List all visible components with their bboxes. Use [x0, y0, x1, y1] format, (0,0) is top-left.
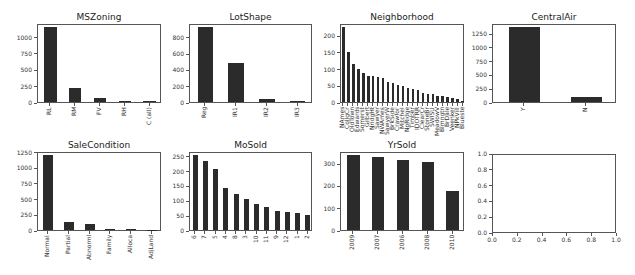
y-tick-label: 150: [306, 49, 335, 56]
y-tick-mark: [337, 69, 340, 70]
axes-centralair: [492, 24, 616, 103]
y-tick-label: 1000: [3, 34, 32, 41]
y-tick-mark: [34, 199, 37, 200]
y-tick-mark: [186, 37, 189, 38]
bar-crawfor: [397, 85, 399, 102]
y-tick-label: 0.2: [458, 213, 487, 220]
x-tick-label: N: [581, 108, 588, 113]
y-tick-label: 400: [155, 66, 184, 73]
x-tick-mark: [377, 103, 378, 106]
bar-sawyer: [377, 77, 379, 102]
x-tick-label: Normal: [43, 235, 50, 257]
bar-edwards: [357, 69, 359, 102]
y-tick-label: 0.4: [458, 197, 487, 204]
x-tick-label: 0.4: [532, 236, 552, 243]
bar-nwames: [382, 78, 384, 102]
x-tick-mark: [276, 231, 277, 234]
x-tick-label: 10: [252, 235, 259, 243]
x-tick-label: Family: [105, 235, 112, 254]
y-tick-mark: [489, 61, 492, 62]
x-tick-label: 2: [303, 235, 310, 239]
y-tick-label: 150: [155, 182, 184, 189]
bar-stonebr: [427, 94, 429, 102]
x-tick-mark: [407, 103, 408, 106]
x-tick-mark: [412, 103, 413, 106]
axes-lotshape: [189, 24, 312, 103]
y-tick-mark: [186, 186, 189, 187]
x-tick-mark: [422, 103, 423, 106]
x-tick-label: 1.0: [606, 236, 626, 243]
y-tick-mark: [186, 103, 189, 104]
bar-normal: [43, 155, 53, 230]
y-tick-mark: [337, 231, 340, 232]
y-tick-label: 0.0: [458, 229, 487, 236]
chart-title-neighborhood: Neighborhood: [340, 12, 464, 22]
y-tick-label: 0: [3, 99, 32, 106]
y-tick-mark: [34, 152, 37, 153]
x-tick-label: 6: [190, 235, 197, 239]
x-tick-mark: [68, 231, 69, 234]
y-tick-mark: [34, 53, 37, 54]
y-tick-label: 250: [155, 153, 184, 160]
x-tick-label: 3: [241, 235, 248, 239]
x-tick-mark: [367, 103, 368, 106]
bar-y: [509, 27, 540, 102]
x-tick-mark: [427, 103, 428, 106]
bar-partial: [64, 222, 74, 230]
bar-7: [203, 161, 208, 230]
x-tick-mark: [204, 231, 205, 234]
y-tick-label: 100: [155, 197, 184, 204]
bar-meadowv: [436, 96, 438, 102]
x-tick-mark: [377, 231, 378, 234]
y-tick-label: 250: [458, 85, 487, 92]
bar-idotrr: [417, 90, 419, 102]
bar-collgcr: [347, 52, 349, 102]
x-tick-mark: [266, 103, 267, 106]
y-tick-label: 750: [458, 58, 487, 65]
x-tick-label: IR2: [262, 107, 269, 117]
y-tick-label: 500: [458, 71, 487, 78]
x-tick-mark: [286, 231, 287, 234]
bar-veenker: [451, 98, 453, 102]
bar-brkside: [392, 83, 394, 102]
x-tick-mark: [372, 103, 373, 106]
y-tick-mark: [337, 86, 340, 87]
x-tick-mark: [362, 103, 363, 106]
bar-ir3: [290, 101, 305, 102]
bar-2010: [446, 191, 458, 230]
y-tick-label: 200: [306, 32, 335, 39]
bar-clearcr: [422, 93, 424, 102]
y-tick-mark: [186, 231, 189, 232]
bar-11: [264, 207, 269, 230]
bar-6: [193, 155, 198, 230]
x-tick-mark: [245, 231, 246, 234]
y-tick-mark: [489, 201, 492, 202]
x-tick-label: 2006: [398, 235, 405, 250]
bar-brdale: [446, 97, 448, 102]
x-tick-mark: [382, 103, 383, 106]
x-tick-mark: [215, 231, 216, 234]
bar-mitchel: [402, 86, 404, 102]
y-tick-mark: [337, 36, 340, 37]
x-tick-label: IR1: [231, 107, 238, 117]
x-tick-mark: [417, 103, 418, 106]
x-tick-mark: [149, 103, 150, 106]
y-tick-mark: [34, 231, 37, 232]
y-tick-mark: [34, 103, 37, 104]
y-tick-label: 100: [306, 66, 335, 73]
axes-mszoning: [37, 24, 161, 103]
y-tick-mark: [489, 217, 492, 218]
bar-1: [295, 213, 300, 230]
x-tick-mark: [523, 103, 524, 106]
bar-c-all-: [143, 101, 155, 102]
chart-title-lotshape: LotShape: [189, 12, 312, 22]
x-tick-label: Y: [519, 107, 526, 111]
bar-sawyerw: [387, 82, 389, 102]
y-tick-mark: [489, 47, 492, 48]
x-tick-mark: [49, 103, 50, 106]
x-tick-mark: [266, 231, 267, 234]
y-tick-label: 0: [458, 99, 487, 106]
y-tick-label: 0: [155, 99, 184, 106]
x-tick-mark: [89, 231, 90, 234]
x-tick-label: 11: [262, 235, 269, 243]
